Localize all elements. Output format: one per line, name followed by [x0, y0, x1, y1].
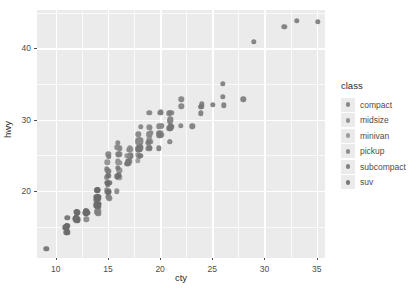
data-point	[158, 124, 163, 129]
legend-key-swatch	[341, 113, 355, 127]
gridline-major-vertical	[212, 10, 213, 258]
data-point	[127, 147, 132, 152]
data-point	[136, 132, 141, 137]
data-point	[251, 39, 256, 44]
legend-label: pickup	[360, 146, 385, 156]
gridline-minor-vertical	[291, 10, 292, 258]
legend-label: subcompact	[360, 162, 406, 172]
y-tick-label: 30	[22, 115, 31, 125]
x-tick-mark	[108, 258, 109, 260]
data-point	[189, 124, 194, 129]
legend-item[interactable]: suv	[341, 175, 416, 191]
legend-item[interactable]: pickup	[341, 144, 416, 160]
gridline-major-vertical	[56, 10, 57, 258]
data-point	[168, 117, 173, 122]
gridline-minor-vertical	[82, 10, 83, 258]
legend-label: compact	[360, 100, 392, 110]
data-point	[315, 19, 320, 24]
legend-point-icon	[346, 133, 351, 138]
legend-item[interactable]: midsize	[341, 113, 416, 129]
data-point	[179, 104, 184, 109]
y-tick-label: 20	[22, 186, 31, 196]
data-point	[107, 196, 112, 201]
gridline-major-horizontal	[37, 48, 325, 49]
data-point	[85, 210, 90, 215]
gridline-minor-horizontal	[37, 155, 325, 156]
legend-key-swatch	[341, 160, 355, 174]
y-tick-label: 40	[22, 43, 31, 53]
data-point	[96, 209, 101, 214]
legend-label: minivan	[360, 131, 389, 141]
legend-key-swatch	[341, 98, 355, 112]
gridline-major-vertical	[264, 10, 265, 258]
x-tick-mark	[56, 258, 57, 260]
legend-items: compactmidsizeminivanpickupsubcompactsuv	[341, 97, 416, 190]
data-point	[83, 217, 88, 222]
data-point	[167, 139, 172, 144]
data-point	[147, 110, 152, 115]
data-point	[282, 24, 287, 29]
data-point	[220, 94, 225, 99]
legend-label: suv	[360, 177, 373, 187]
data-point	[241, 97, 246, 102]
gridline-minor-horizontal	[37, 13, 325, 14]
gridline-minor-horizontal	[37, 227, 325, 228]
data-point	[96, 204, 101, 209]
legend-point-icon	[346, 180, 351, 185]
legend-point-icon	[346, 118, 351, 123]
data-point	[138, 124, 143, 129]
gridline-minor-vertical	[238, 10, 239, 258]
data-point	[169, 110, 174, 115]
data-point	[138, 153, 143, 158]
legend-key-swatch	[341, 144, 355, 158]
legend-key-swatch	[341, 175, 355, 189]
legend-label: midsize	[360, 115, 389, 125]
data-point	[198, 111, 203, 116]
data-point	[135, 158, 140, 163]
legend-point-icon	[346, 164, 351, 169]
y-tick-mark	[34, 191, 36, 192]
data-point	[105, 182, 110, 187]
x-tick-mark	[160, 258, 161, 260]
data-point	[106, 173, 111, 178]
gridline-major-horizontal	[37, 120, 325, 121]
x-axis-title: cty	[37, 272, 325, 283]
data-point	[158, 109, 163, 114]
legend-item[interactable]: minivan	[341, 128, 416, 144]
data-point	[117, 152, 122, 157]
legend-point-icon	[346, 102, 351, 107]
x-tick-mark	[264, 258, 265, 260]
data-point	[221, 102, 226, 107]
gridline-minor-vertical	[186, 10, 187, 258]
legend-key-swatch	[341, 129, 355, 143]
data-point	[220, 81, 225, 86]
data-point	[64, 230, 69, 235]
legend: class compactmidsizeminivanpickupsubcomp…	[341, 80, 416, 190]
x-tick-mark	[317, 258, 318, 260]
legend-item[interactable]: subcompact	[341, 159, 416, 175]
data-point	[44, 246, 49, 251]
plot-panel	[37, 10, 325, 258]
gridline-major-vertical	[108, 10, 109, 258]
y-axis-title: hwy	[2, 110, 13, 150]
y-tick-mark	[34, 120, 36, 121]
data-point	[178, 123, 183, 128]
data-point	[179, 97, 184, 102]
scatter-plot-figure: 203040 101520253035 cty hwy class compac…	[0, 0, 416, 294]
data-point	[65, 215, 70, 220]
data-point	[294, 18, 299, 23]
data-point	[114, 189, 119, 194]
gridline-major-horizontal	[37, 191, 325, 192]
legend-item[interactable]: compact	[341, 97, 416, 113]
x-tick-mark	[212, 258, 213, 260]
legend-title: class	[341, 80, 416, 91]
gridline-major-vertical	[317, 10, 318, 258]
data-point	[210, 102, 215, 107]
y-tick-mark	[34, 48, 36, 49]
legend-point-icon	[346, 149, 351, 154]
gridline-minor-horizontal	[37, 84, 325, 85]
